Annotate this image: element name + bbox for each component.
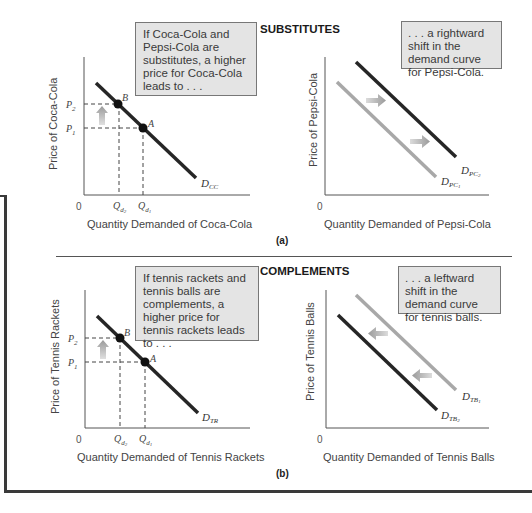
graphs-svg: B A P2 P1 Qd2 Qd1 0 DCC Price of Coca-Co… bbox=[0, 0, 532, 513]
figure: SUBSTITUTES COMPLEMENTS (a) (b) If Coca-… bbox=[0, 0, 532, 513]
qd1-label: Qd1 bbox=[138, 200, 151, 214]
point-a bbox=[141, 358, 150, 367]
left-arrow-icon bbox=[412, 369, 432, 382]
y-axis-label: Price of Tennis Rackets bbox=[49, 299, 61, 414]
demand-curve-pc1 bbox=[337, 82, 436, 177]
demand-curve-tb1 bbox=[356, 295, 456, 390]
x-axis-label: Quantity Demanded of Tennis Rackets bbox=[77, 451, 265, 463]
curve-label-dpc1: DPC1 bbox=[440, 175, 460, 189]
graph-coca-cola: B A P2 P1 Qd2 Qd1 0 DCC Price of Coca-Co… bbox=[47, 57, 253, 230]
graph-tennis-balls: DTB1 DTB2 0 Price of Tennis Balls Quanti… bbox=[304, 290, 495, 463]
point-a-label: A bbox=[149, 353, 157, 364]
origin-label: 0 bbox=[76, 201, 82, 212]
graph-tennis-rackets: B A P2 P1 Qd2 Qd1 0 DTR Price of Tennis … bbox=[49, 290, 265, 463]
qd1-label: Qd1 bbox=[139, 433, 152, 447]
origin-label: 0 bbox=[317, 201, 323, 212]
y-axis-label: Price of Pepsi-Cola bbox=[307, 72, 319, 167]
point-a bbox=[139, 124, 148, 133]
curve-label-dtb1: DTB1 bbox=[461, 390, 481, 404]
left-arrow-icon bbox=[368, 327, 388, 340]
x-axis-label: Quantity Demanded of Pepsi-Cola bbox=[324, 218, 492, 230]
curve-label-dtb2: DTB2 bbox=[440, 409, 460, 423]
up-arrow-icon bbox=[97, 340, 109, 359]
demand-curve-pc2 bbox=[356, 62, 456, 157]
curve-label-dcc: DCC bbox=[200, 177, 219, 191]
p1-label: P1 bbox=[65, 123, 76, 137]
point-b-label: B bbox=[122, 92, 128, 103]
demand-curve-tb2 bbox=[338, 315, 437, 410]
up-arrow-icon bbox=[96, 106, 108, 125]
x-axis-label: Quantity Demanded of Tennis Balls bbox=[323, 451, 495, 463]
qd2-label: Qd2 bbox=[113, 200, 127, 214]
point-b-label: B bbox=[124, 327, 130, 338]
graph-pepsi-cola: DPC2 DPC1 0 Price of Pepsi-Cola Quantity… bbox=[307, 57, 492, 230]
curve-label-dpc2: DPC2 bbox=[460, 164, 481, 178]
point-a-label: A bbox=[147, 118, 155, 129]
y-axis-label: Price of Coca-Cola bbox=[47, 77, 59, 170]
right-arrow-icon bbox=[410, 135, 430, 148]
right-arrow-icon bbox=[366, 94, 386, 107]
curve-label-dtr: DTR bbox=[201, 411, 219, 425]
x-axis-label: Quantity Demanded of Coca-Cola bbox=[87, 218, 253, 230]
origin-label: 0 bbox=[317, 434, 323, 445]
p1-label: P1 bbox=[67, 357, 78, 371]
p2-label: P2 bbox=[67, 333, 78, 347]
p2-label: P2 bbox=[65, 99, 76, 113]
qd2-label: Qd2 bbox=[114, 433, 128, 447]
origin-label: 0 bbox=[76, 434, 82, 445]
y-axis-label: Price of Tennis Balls bbox=[304, 302, 316, 401]
